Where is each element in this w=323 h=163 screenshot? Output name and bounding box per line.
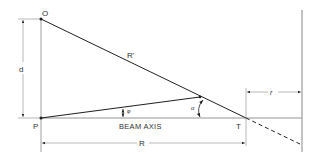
label-beam-axis: BEAM AXIS xyxy=(119,122,162,131)
label-p: P xyxy=(33,122,38,131)
alpha-angle-arc xyxy=(199,100,203,117)
label-alpha: α xyxy=(191,105,195,111)
point-p xyxy=(40,117,43,120)
label-phi: φ xyxy=(127,108,131,114)
label-o: O xyxy=(42,9,48,18)
label-d: d xyxy=(19,65,23,74)
label-r-prime: R' xyxy=(127,51,135,60)
dashed-extension-line xyxy=(246,118,302,145)
p-to-point-line xyxy=(41,97,200,118)
r-prime-line xyxy=(41,19,246,118)
label-t: T xyxy=(236,122,241,131)
intersection-point xyxy=(199,96,202,99)
beam-geometry-diagram: O P T d R' r R φ α BEAM AXIS xyxy=(0,0,323,163)
label-big-r: R xyxy=(139,139,145,148)
